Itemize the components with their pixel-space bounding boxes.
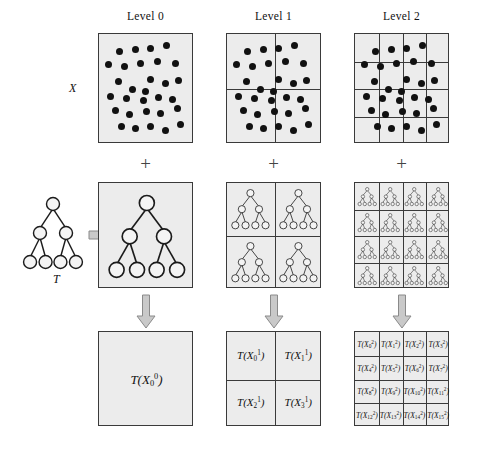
point-cloud-panel-level2 bbox=[354, 33, 449, 143]
output-cell-label: T(X31) bbox=[285, 396, 312, 410]
point-cloud-panel-level0 bbox=[98, 33, 193, 143]
output-cell-label: T(X102) bbox=[403, 386, 425, 396]
data-point bbox=[260, 125, 267, 132]
data-point bbox=[147, 123, 154, 130]
data-point bbox=[433, 121, 440, 128]
tree-graphic bbox=[278, 188, 319, 230]
tree-panel-level2 bbox=[354, 182, 449, 288]
data-point bbox=[240, 107, 247, 114]
data-point bbox=[260, 46, 267, 53]
data-point bbox=[268, 97, 275, 104]
output-cell-label: T(X11) bbox=[285, 349, 312, 363]
data-point bbox=[305, 121, 312, 128]
output-cell-label: T(X72) bbox=[429, 362, 448, 372]
data-point bbox=[431, 77, 438, 84]
grid-line-horizontal bbox=[355, 403, 448, 404]
plus-operator-level1: + bbox=[268, 154, 279, 173]
data-point bbox=[257, 86, 264, 93]
data-point bbox=[413, 110, 420, 117]
data-point bbox=[290, 127, 297, 134]
output-cell-label: T(X02) bbox=[357, 339, 376, 349]
column-header-level1: Level 1 bbox=[226, 10, 321, 22]
data-point bbox=[428, 60, 435, 67]
data-point bbox=[275, 76, 282, 83]
data-point bbox=[116, 48, 123, 55]
tree-graphic bbox=[428, 239, 448, 260]
data-point bbox=[410, 58, 417, 65]
data-point bbox=[403, 45, 410, 52]
data-point bbox=[118, 123, 125, 130]
data-point bbox=[112, 107, 119, 114]
data-point bbox=[140, 97, 147, 104]
grid-line-horizontal bbox=[355, 236, 448, 237]
data-point bbox=[291, 42, 298, 49]
output-cell-label: T(X142) bbox=[403, 410, 425, 420]
data-point bbox=[399, 108, 406, 115]
output-cell-label: T(X22) bbox=[405, 339, 424, 349]
grid-line-horizontal bbox=[227, 380, 320, 381]
data-point bbox=[285, 110, 292, 117]
data-point bbox=[105, 61, 112, 68]
tree-graphic bbox=[357, 212, 377, 233]
grid-line-horizontal bbox=[355, 117, 448, 118]
data-point bbox=[155, 94, 162, 101]
data-point bbox=[249, 63, 256, 70]
data-point bbox=[382, 111, 389, 118]
data-point bbox=[172, 60, 179, 67]
data-point bbox=[275, 123, 282, 130]
point-cloud-panel-level1 bbox=[226, 33, 321, 143]
output-cell-label: T(X82) bbox=[357, 386, 376, 396]
data-point bbox=[233, 61, 240, 68]
data-point bbox=[157, 110, 164, 117]
arrow-down-icon-level0 bbox=[136, 294, 156, 330]
tree-panel-level0 bbox=[98, 182, 193, 288]
data-point bbox=[290, 80, 297, 87]
data-point bbox=[162, 127, 169, 134]
column-header-level0: Level 0 bbox=[98, 10, 193, 22]
tree-graphic bbox=[357, 265, 377, 286]
data-point bbox=[385, 86, 392, 93]
plus-operator-level2: + bbox=[396, 154, 407, 173]
data-point bbox=[377, 63, 384, 70]
output-cell-label: T(X92) bbox=[381, 386, 400, 396]
data-point bbox=[418, 80, 425, 87]
data-point bbox=[243, 78, 250, 85]
output-panel-level2: T(X02)T(X12)T(X22)T(X32)T(X42)T(X52)T(X6… bbox=[354, 331, 449, 426]
data-point bbox=[371, 78, 378, 85]
arrow-down-icon-level1 bbox=[264, 294, 284, 330]
data-point bbox=[137, 60, 144, 67]
data-point bbox=[372, 48, 379, 55]
tree-graphic bbox=[380, 265, 400, 286]
data-point bbox=[388, 125, 395, 132]
output-cell-label: T(X42) bbox=[357, 362, 376, 372]
data-point bbox=[244, 48, 251, 55]
data-point bbox=[132, 46, 139, 53]
row-label-tree: T bbox=[53, 272, 60, 287]
tree-graphic bbox=[380, 186, 400, 207]
data-point bbox=[174, 105, 181, 112]
data-point bbox=[275, 45, 282, 52]
data-point bbox=[162, 80, 169, 87]
data-point bbox=[403, 76, 410, 83]
data-point bbox=[132, 125, 139, 132]
data-point bbox=[115, 78, 122, 85]
grid-line-vertical bbox=[275, 183, 276, 287]
data-point bbox=[123, 95, 130, 102]
output-cell-label: T(X01) bbox=[237, 349, 264, 363]
data-point bbox=[430, 105, 437, 112]
arrow-down-icon-level2 bbox=[392, 294, 412, 330]
data-point bbox=[368, 107, 375, 114]
output-cell-label: T(X62) bbox=[405, 362, 424, 372]
data-point bbox=[121, 63, 128, 70]
data-point bbox=[374, 123, 381, 130]
data-point bbox=[126, 111, 133, 118]
tree-graphic bbox=[404, 186, 424, 207]
grid-line-vertical bbox=[426, 34, 427, 142]
output-cell-label: T(X122) bbox=[356, 410, 378, 420]
grid-line-vertical bbox=[275, 332, 276, 425]
data-point bbox=[142, 88, 149, 95]
grid-line-horizontal bbox=[227, 236, 320, 237]
data-point bbox=[361, 61, 368, 68]
data-point bbox=[169, 96, 176, 103]
tree-graphic bbox=[357, 186, 377, 207]
